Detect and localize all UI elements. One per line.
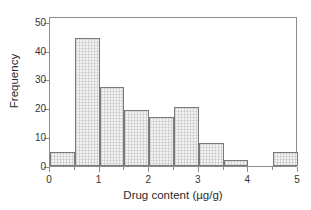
x-tick-label: 2 — [136, 175, 160, 185]
y-tick-label: 0 — [6, 162, 46, 172]
histogram-bar — [75, 38, 100, 166]
x-minor-tick-mark — [173, 167, 174, 170]
x-tick-mark — [148, 167, 149, 172]
x-tick-label: 0 — [37, 175, 61, 185]
x-tick-label: 4 — [235, 175, 259, 185]
y-tick-label: 30 — [6, 75, 46, 85]
bars-layer — [50, 18, 296, 166]
x-tick-mark — [297, 167, 298, 172]
x-tick-mark — [198, 167, 199, 172]
x-minor-tick-mark — [272, 167, 273, 170]
y-tick-label: 50 — [6, 18, 46, 28]
histogram-bar — [50, 152, 75, 166]
x-axis-label: Drug content (µg/g) — [49, 189, 297, 201]
histogram-bar — [224, 160, 249, 166]
y-tick-label: 20 — [6, 104, 46, 114]
x-minor-tick-mark — [74, 167, 75, 170]
x-tick-label: 3 — [186, 175, 210, 185]
x-minor-tick-mark — [223, 167, 224, 170]
histogram-figure: Frequency 01020304050 012345 Drug conten… — [0, 0, 311, 210]
plot-area — [49, 17, 297, 167]
x-tick-label: 1 — [87, 175, 111, 185]
x-tick-label: 5 — [285, 175, 309, 185]
y-tick-label: 10 — [6, 133, 46, 143]
histogram-bar — [124, 110, 149, 166]
x-tick-mark — [247, 167, 248, 172]
x-minor-tick-mark — [123, 167, 124, 170]
histogram-bar — [100, 87, 125, 166]
histogram-bar — [149, 117, 174, 166]
histogram-bar — [174, 107, 199, 166]
histogram-bar — [199, 143, 224, 166]
x-tick-mark — [99, 167, 100, 172]
x-tick-mark — [49, 167, 50, 172]
histogram-bar — [273, 152, 298, 166]
y-tick-label: 40 — [6, 47, 46, 57]
